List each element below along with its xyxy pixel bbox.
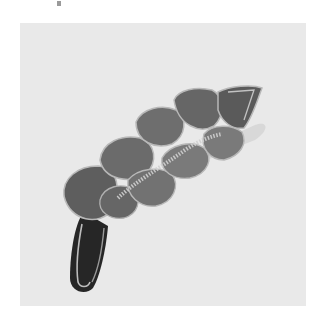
stem	[70, 212, 108, 292]
applique-photo	[0, 0, 323, 321]
leaf-body	[64, 86, 262, 220]
